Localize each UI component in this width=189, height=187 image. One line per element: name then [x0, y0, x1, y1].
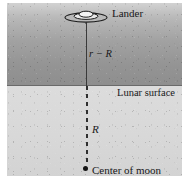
lunar-lander-saucer-icon [63, 8, 109, 24]
radius-label: R [92, 124, 99, 135]
center-of-moon-label: Center of moon [92, 165, 161, 176]
altitude-line-segment [86, 22, 87, 86]
center-of-moon-dot-icon [83, 166, 88, 171]
lunar-surface-line [7, 85, 182, 86]
altitude-label: r − R [89, 49, 112, 60]
lunar-surface-label: Lunar surface [117, 88, 175, 99]
lunar-lander-diagram: Lander r − R Lunar surface R Center of m… [0, 0, 189, 187]
lander-label: Lander [112, 8, 143, 19]
radius-line-segment [86, 86, 88, 166]
